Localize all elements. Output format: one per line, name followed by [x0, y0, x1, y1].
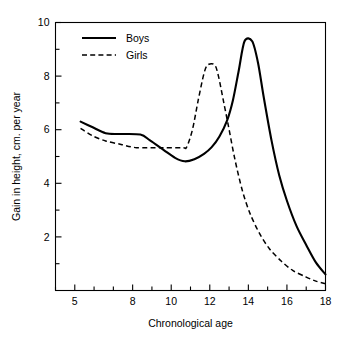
chart-background — [0, 0, 344, 338]
x-tick-label: 12 — [204, 295, 216, 307]
growth-velocity-chart-figure: 581012141618 246810 BoysGirls Chronologi… — [0, 0, 344, 338]
y-tick-label: 2 — [44, 231, 50, 243]
x-tick-label: 16 — [281, 295, 293, 307]
legend-label-girls: Girls — [126, 49, 148, 61]
y-tick-label: 8 — [44, 70, 50, 82]
x-tick-label: 10 — [165, 295, 177, 307]
x-tick-label: 5 — [72, 295, 78, 307]
x-axis-title: Chronological age — [148, 317, 233, 329]
y-axis-title: Gain in height, cm. per year — [10, 92, 22, 221]
y-tick-label: 6 — [44, 123, 50, 135]
x-tick-label: 14 — [243, 295, 255, 307]
x-tick-label: 8 — [130, 295, 136, 307]
y-tick-label: 10 — [38, 16, 50, 28]
y-tick-label: 4 — [44, 177, 50, 189]
legend-label-boys: Boys — [126, 32, 149, 44]
x-tick-label: 18 — [320, 295, 332, 307]
chart-canvas: 581012141618 246810 BoysGirls Chronologi… — [0, 0, 344, 338]
